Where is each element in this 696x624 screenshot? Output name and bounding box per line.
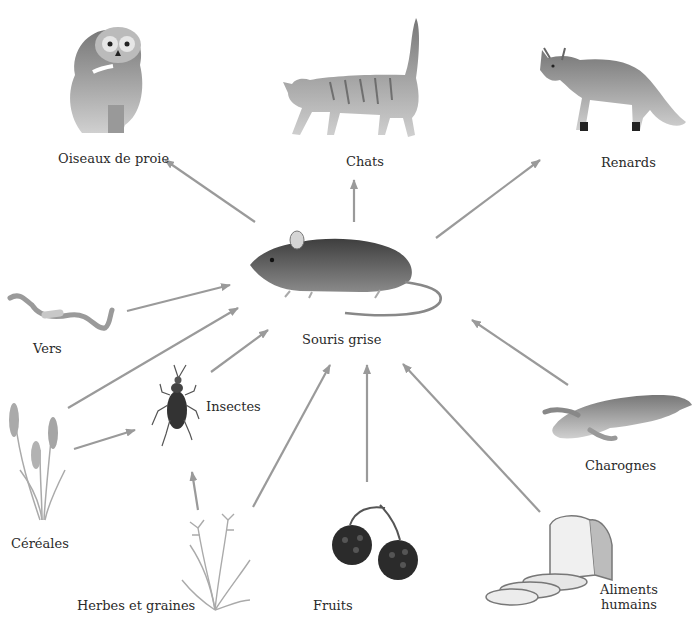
label-birds-of-prey: Oiseaux de proie bbox=[58, 151, 169, 166]
label-foxes: Renards bbox=[601, 155, 656, 170]
dead-rabbit-icon bbox=[545, 395, 692, 439]
fox-icon bbox=[540, 48, 686, 131]
label-human-food-line1: Aliments bbox=[600, 582, 658, 597]
label-human-food: Aliments humains bbox=[600, 582, 658, 612]
grass-icon bbox=[182, 514, 250, 610]
label-worms: Vers bbox=[33, 341, 62, 356]
mouse-icon bbox=[250, 231, 441, 315]
label-carrion: Charognes bbox=[585, 458, 656, 473]
beetle-icon bbox=[152, 365, 199, 446]
label-grasses-seeds: Herbes et graines bbox=[77, 598, 195, 613]
label-fruits: Fruits bbox=[313, 598, 353, 613]
blackberry-icon bbox=[332, 505, 418, 580]
label-cats: Chats bbox=[346, 154, 384, 169]
illustrations-layer bbox=[0, 0, 696, 624]
bread-icon bbox=[486, 516, 612, 605]
worm-icon bbox=[10, 296, 112, 328]
label-house-mouse: Souris grise bbox=[302, 332, 381, 347]
label-cereals: Céréales bbox=[11, 536, 69, 551]
label-insects: Insectes bbox=[206, 399, 261, 414]
label-human-food-line2: humains bbox=[600, 597, 658, 612]
cat-icon bbox=[283, 18, 419, 137]
owl-icon bbox=[70, 27, 142, 133]
wheat-icon bbox=[9, 403, 65, 520]
